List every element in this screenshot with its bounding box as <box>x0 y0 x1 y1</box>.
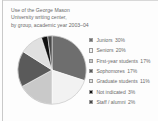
caption-line-1: Use of the George Mason <box>11 7 93 14</box>
pie-slice-group <box>18 36 86 104</box>
pie-chart <box>17 35 87 105</box>
legend-item: Graduate students11% <box>89 76 158 86</box>
chart-legend: Juniors30%Seniors20%First-year students1… <box>89 35 158 107</box>
legend-swatch-icon <box>89 38 93 42</box>
legend-swatch-icon <box>89 100 93 104</box>
legend-item: Not indicated3% <box>89 86 158 96</box>
legend-label: Not indicated <box>96 89 125 95</box>
legend-swatch-icon <box>89 69 93 73</box>
legend-label: Seniors <box>96 47 113 53</box>
legend-item: Sophomores17% <box>89 66 158 76</box>
legend-value: 17% <box>140 58 150 64</box>
legend-item: Juniors30% <box>89 35 158 45</box>
caption-line-2: University writing center, <box>11 14 93 21</box>
legend-value: 11% <box>140 78 150 84</box>
legend-value: 2% <box>128 99 135 105</box>
legend-item: First-year students17% <box>89 56 158 66</box>
legend-swatch-icon <box>89 48 93 52</box>
figure-caption: Use of the George Mason University writi… <box>11 7 93 29</box>
legend-item: Staff / alumni2% <box>89 97 158 107</box>
legend-item: Seniors20% <box>89 45 158 55</box>
legend-swatch-icon <box>89 59 93 63</box>
legend-value: 20% <box>116 47 126 53</box>
legend-label: Staff / alumni <box>96 99 125 105</box>
legend-label: First-year students <box>96 58 138 64</box>
caption-line-3: by group, academic year 2003–04 <box>11 22 93 29</box>
legend-value: 3% <box>128 89 135 95</box>
legend-label: Graduate students <box>96 78 137 84</box>
pie-chart-figure: Use of the George Mason University writi… <box>0 0 158 121</box>
legend-value: 17% <box>127 68 137 74</box>
legend-value: 30% <box>115 37 125 43</box>
top-rule <box>2 0 158 1</box>
legend-label: Juniors <box>96 37 112 43</box>
legend-swatch-icon <box>89 79 93 83</box>
legend-label: Sophomores <box>96 68 124 74</box>
legend-swatch-icon <box>89 90 93 94</box>
gutter-rule <box>2 0 3 121</box>
pie-chart-svg <box>17 35 87 105</box>
